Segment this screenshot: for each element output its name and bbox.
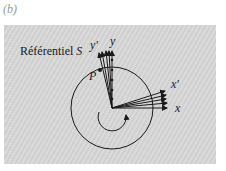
x-prime-label: x′	[171, 78, 179, 90]
rotation-arrow-icon	[98, 112, 126, 131]
x-label: x	[175, 102, 180, 114]
x-axis-vectors	[112, 91, 167, 108]
p-label: P	[89, 70, 96, 82]
rotating-frame-diagram	[0, 0, 226, 171]
y-axis-vectors	[99, 51, 112, 108]
y-label: y	[110, 35, 115, 47]
y-prime-label: y′	[90, 39, 98, 51]
point-p	[98, 68, 102, 72]
